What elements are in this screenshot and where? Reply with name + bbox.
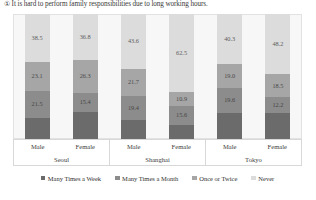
bar-segment-many-times-a-month[interactable]: 12.2 [265, 97, 290, 112]
bar-segment-once-or-twice[interactable]: 23.1 [25, 62, 50, 91]
axis-group-shanghai: MaleFemaleShanghai [109, 139, 205, 166]
bar-group-shanghai: 43.621.719.462.510.915.6 [109, 14, 205, 139]
bar-segment-many-times-a-month[interactable]: 19.6 [217, 88, 242, 113]
bar-segment-once-or-twice[interactable]: 19.0 [217, 64, 242, 88]
square-swatch-icon [192, 176, 197, 181]
bar-seoul-female[interactable]: 36.826.315.4 [73, 14, 98, 139]
stacked-bar-series: 38.523.121.536.826.315.443.621.719.462.5… [13, 14, 302, 139]
bar-segment-many-times-a-month[interactable]: 15.4 [73, 93, 98, 112]
axis-label-city: Seoul [14, 153, 109, 165]
bar-segment-once-or-twice[interactable]: 18.5 [265, 74, 290, 97]
bar-segment-value: 62.5 [176, 50, 187, 56]
axis-label-male: Male [110, 140, 158, 153]
bar-segment-value: 48.2 [272, 41, 283, 47]
bar-segment-value: 18.5 [272, 83, 283, 89]
bar-segment-never[interactable]: 36.8 [73, 14, 98, 60]
bar-group-tokyo: 40.319.019.648.218.512.2 [206, 14, 302, 139]
bar-segment-never[interactable]: 62.5 [169, 14, 194, 92]
axis-label-female: Female [158, 140, 206, 153]
bar-segment-value: 23.1 [32, 73, 43, 79]
axis-group-seoul: MaleFemaleSeoul [13, 139, 109, 166]
square-swatch-icon [251, 176, 256, 181]
bar-segment-many-times-a-week[interactable] [265, 113, 290, 139]
legend-item-label: Never [258, 175, 274, 182]
axis-group-tokyo: MaleFemaleTokyo [205, 139, 302, 166]
category-axis: MaleFemaleSeoulMaleFemaleShanghaiMaleFem… [13, 139, 302, 166]
bar-segment-value: 15.6 [176, 112, 187, 118]
bar-segment-value: 26.3 [80, 73, 91, 79]
bar-tokyo-female[interactable]: 48.218.512.2 [265, 14, 290, 139]
bar-segment-never[interactable]: 43.6 [121, 14, 146, 69]
bar-segment-many-times-a-month[interactable]: 15.6 [169, 106, 194, 126]
bar-segment-many-times-a-week[interactable] [121, 120, 146, 139]
axis-label-city: Tokyo [206, 153, 301, 165]
chart-figure: ① It is hard to perform family responsib… [0, 0, 316, 200]
axis-sex-row: MaleFemale [110, 140, 205, 153]
bar-segment-once-or-twice[interactable]: 21.7 [121, 69, 146, 96]
bar-segment-many-times-a-week[interactable] [25, 118, 50, 139]
bar-segment-value: 21.5 [32, 101, 43, 107]
bar-shanghai-female[interactable]: 62.510.915.6 [169, 14, 194, 139]
bar-group-seoul: 38.523.121.536.826.315.4 [13, 14, 109, 139]
bar-segment-value: 38.5 [32, 35, 43, 41]
legend-item-label: Many Times a Month [122, 175, 178, 182]
legend-item[interactable]: Once or Twice [192, 175, 237, 182]
bar-seoul-male[interactable]: 38.523.121.5 [25, 14, 50, 139]
axis-label-city: Shanghai [110, 153, 205, 165]
bar-segment-many-times-a-week[interactable] [73, 112, 98, 139]
axis-sex-row: MaleFemale [14, 140, 109, 153]
bar-segment-value: 12.2 [272, 102, 283, 108]
axis-sex-row: MaleFemale [206, 140, 301, 153]
bar-segment-once-or-twice[interactable]: 10.9 [169, 92, 194, 106]
axis-label-female: Female [254, 140, 302, 153]
chart-legend: Many Times a WeekMany Times a MonthOnce … [13, 171, 302, 185]
bar-segment-many-times-a-week[interactable] [169, 125, 194, 139]
legend-item[interactable]: Many Times a Week [41, 175, 101, 182]
legend-item-label: Once or Twice [199, 175, 237, 182]
bar-segment-value: 40.3 [224, 36, 235, 42]
page-title: ① It is hard to perform family responsib… [4, 0, 208, 8]
legend-item[interactable]: Never [251, 175, 274, 182]
axis-label-male: Male [206, 140, 254, 153]
bar-segment-value: 19.4 [128, 105, 139, 111]
bar-segment-never[interactable]: 40.3 [217, 14, 242, 64]
square-swatch-icon [41, 176, 46, 181]
bar-segment-never[interactable]: 48.2 [265, 14, 290, 74]
axis-label-female: Female [62, 140, 110, 153]
bar-segment-value: 19.6 [224, 97, 235, 103]
legend-item-label: Many Times a Week [48, 175, 101, 182]
bar-shanghai-male[interactable]: 43.621.719.4 [121, 14, 146, 139]
bar-segment-value: 43.6 [128, 38, 139, 44]
bar-segment-value: 21.7 [128, 79, 139, 85]
bar-segment-value: 19.0 [224, 73, 235, 79]
bar-segment-many-times-a-month[interactable]: 21.5 [25, 91, 50, 118]
bar-segment-never[interactable]: 38.5 [25, 14, 50, 62]
bar-segment-value: 15.4 [80, 99, 91, 105]
square-swatch-icon [115, 176, 120, 181]
bar-segment-value: 36.8 [80, 34, 91, 40]
axis-label-male: Male [14, 140, 62, 153]
bar-segment-value: 10.9 [176, 96, 187, 102]
bar-segment-many-times-a-week[interactable] [217, 113, 242, 139]
legend-item[interactable]: Many Times a Month [115, 175, 178, 182]
bar-segment-once-or-twice[interactable]: 26.3 [73, 60, 98, 93]
bar-tokyo-male[interactable]: 40.319.019.6 [217, 14, 242, 139]
bar-segment-many-times-a-month[interactable]: 19.4 [121, 96, 146, 120]
